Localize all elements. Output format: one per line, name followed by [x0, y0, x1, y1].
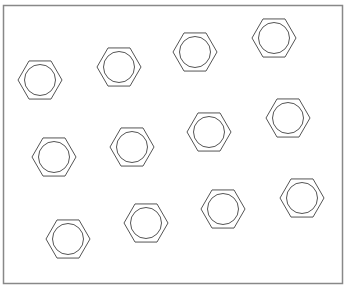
- hex-nut-icon: [201, 190, 245, 228]
- hex-nut-icon: [110, 128, 154, 166]
- hex-nut-icon: [266, 99, 310, 137]
- hex-nut-icon: [124, 204, 168, 242]
- inner-circle: [25, 65, 56, 96]
- inner-circle: [117, 132, 148, 163]
- inner-circle: [259, 23, 290, 54]
- hex-nut-icon: [252, 19, 296, 57]
- inner-circle: [39, 142, 70, 173]
- hex-nut-group: [18, 19, 324, 258]
- inner-circle: [180, 37, 211, 68]
- inner-circle: [104, 52, 135, 83]
- hex-nut-icon: [97, 48, 141, 86]
- inner-circle: [208, 194, 239, 225]
- diagram-frame: [4, 6, 343, 284]
- hex-nut-icon: [280, 179, 324, 217]
- inner-circle: [53, 224, 84, 255]
- hex-nut-icon: [18, 61, 62, 99]
- hex-nut-icon: [187, 113, 231, 151]
- inner-circle: [273, 103, 304, 134]
- hex-nut-icon: [32, 138, 76, 176]
- inner-circle: [194, 117, 225, 148]
- hex-nut-diagram: [0, 0, 346, 289]
- inner-circle: [287, 183, 318, 214]
- hex-nut-icon: [46, 220, 90, 258]
- inner-circle: [131, 208, 162, 239]
- hex-nut-icon: [173, 33, 217, 71]
